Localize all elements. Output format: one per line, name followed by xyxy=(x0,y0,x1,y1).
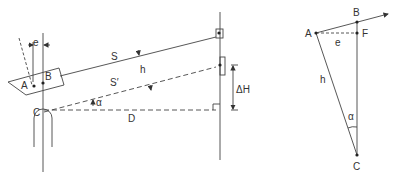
point-mid-target xyxy=(218,63,221,66)
S-line xyxy=(60,37,216,76)
geometry-diagram: e A B C S S′ h α D ΔH A B F e h α C xyxy=(0,0,395,181)
label-C-right: C xyxy=(353,161,360,172)
label-A: A xyxy=(21,80,28,91)
label-h-right: h xyxy=(320,74,326,85)
S-prime-angle-arrow xyxy=(150,85,151,90)
S-angle-arrow xyxy=(138,50,139,55)
label-B-right: B xyxy=(353,7,360,18)
point-C-right xyxy=(355,153,358,156)
point-B-right xyxy=(355,20,358,23)
label-S-prime: S′ xyxy=(110,77,119,88)
point-A xyxy=(32,84,35,87)
right-labels: A B F e h α C xyxy=(305,7,368,172)
label-D: D xyxy=(128,113,135,124)
right-angle-mark xyxy=(213,104,220,110)
label-S: S xyxy=(111,51,118,62)
alpha-arc xyxy=(348,127,357,128)
AB-arrow-line xyxy=(316,14,388,33)
label-B: B xyxy=(45,71,52,82)
label-A-right: A xyxy=(305,28,312,39)
label-C: C xyxy=(33,107,40,118)
label-e-right: e xyxy=(335,37,341,48)
left-panel xyxy=(8,12,238,172)
right-panel xyxy=(316,14,388,155)
point-top-target xyxy=(217,31,220,34)
label-alpha: α xyxy=(96,97,102,108)
label-h: h xyxy=(140,64,146,75)
AC-line-h xyxy=(316,33,357,155)
point-A-right xyxy=(314,31,317,34)
label-delta-H: ΔH xyxy=(236,84,250,95)
label-alpha-right: α xyxy=(348,111,354,122)
diagram-canvas: e A B C S S′ h α D ΔH A B F e h α C xyxy=(0,0,395,181)
left-labels: e A B C S S′ h α D ΔH xyxy=(21,37,250,124)
label-e: e xyxy=(33,37,39,48)
point-F-right xyxy=(355,31,358,34)
label-F-right: F xyxy=(362,28,368,39)
instrument-body xyxy=(8,68,64,95)
